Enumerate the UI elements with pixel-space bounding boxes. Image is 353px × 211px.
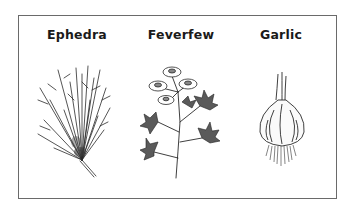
feverfew-illustration bbox=[140, 62, 220, 182]
garlic-illustration bbox=[252, 70, 312, 170]
label-garlic: Garlic bbox=[226, 27, 336, 42]
label-feverfew: Feverfew bbox=[126, 27, 236, 42]
label-ephedra: Ephedra bbox=[22, 27, 132, 42]
ephedra-illustration bbox=[30, 60, 115, 180]
